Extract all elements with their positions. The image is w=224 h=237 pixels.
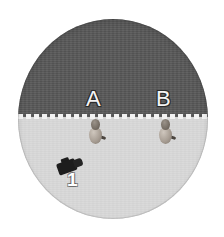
zone-label-a: A [86, 88, 101, 110]
camera-label: 1 [67, 170, 78, 189]
circular-arena: A B 1 [18, 19, 208, 219]
subject-head-icon [161, 119, 170, 130]
scene-container: A B 1 [0, 0, 224, 237]
zone-divider-line [18, 114, 208, 119]
arena-dark-zone [18, 19, 208, 117]
camera-lens-icon [73, 157, 84, 168]
subject-marker-b [158, 119, 173, 145]
zone-label-b: B [156, 88, 171, 110]
subject-marker-a [88, 119, 103, 145]
subject-head-icon [91, 119, 100, 130]
arena-light-zone [18, 117, 208, 219]
